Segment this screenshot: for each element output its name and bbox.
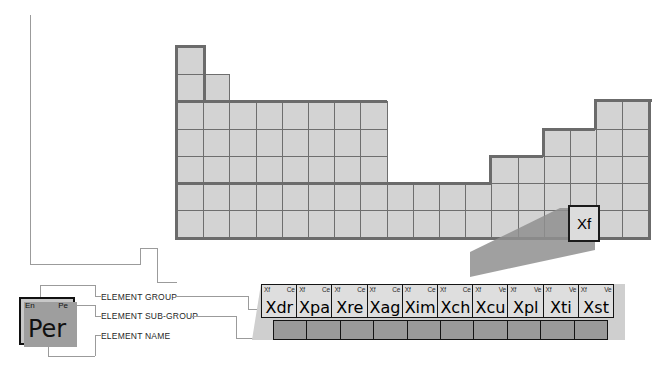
element-cell[interactable] [622,101,649,129]
element-cell[interactable] [308,101,335,129]
element-cell[interactable] [387,210,414,238]
element-cell[interactable] [334,210,361,238]
element-cell[interactable] [308,210,335,238]
connector-left-rail-foot [30,264,140,265]
element-cell[interactable] [622,183,649,211]
series-element-cell[interactable]: XfCeXag [367,284,404,318]
connector-series-sub-tick [236,338,260,339]
element-cell[interactable] [308,156,335,184]
element-cell[interactable] [256,210,283,238]
element-cell[interactable] [570,129,597,157]
element-cell[interactable] [229,183,256,211]
element-cell[interactable] [465,210,492,238]
element-cell[interactable] [203,210,230,238]
element-cell[interactable] [282,156,309,184]
element-cell[interactable] [229,210,256,238]
element-cell[interactable] [360,183,387,211]
element-cell[interactable] [334,129,361,157]
element-cell[interactable] [308,183,335,211]
series-element-cell[interactable]: XfVeXpl [507,284,544,318]
element-cell-xf[interactable]: Xf [568,205,600,242]
element-cell[interactable] [360,129,387,157]
series-element-subgroup: Ce [287,286,295,293]
element-cell[interactable] [596,183,623,211]
table-frame-edge [595,99,651,102]
series-element-subgroup: Ve [604,286,611,293]
element-cell[interactable] [518,156,545,184]
series-element-name: Xcu [473,298,508,317]
element-cell[interactable] [256,129,283,157]
element-cell[interactable] [622,129,649,157]
element-cell[interactable] [360,210,387,238]
element-cell[interactable] [203,183,230,211]
element-cell[interactable] [491,156,518,184]
series-element-cell[interactable]: XfCeXpa [296,284,333,318]
element-cell[interactable] [256,156,283,184]
element-cell[interactable] [596,129,623,157]
element-cell[interactable] [229,156,256,184]
element-cell[interactable] [596,156,623,184]
connector-group-run [40,285,95,286]
series-element-cell[interactable]: XfVeXst [578,284,615,318]
element-cell[interactable] [387,183,414,211]
element-cell[interactable] [177,156,204,184]
element-cell[interactable] [282,101,309,129]
element-cell[interactable] [544,210,571,238]
series-element-cell[interactable]: XfVeXti [543,284,580,318]
legend-key-box[interactable]: En Pe Per [19,297,75,345]
legend-group-label: En [25,301,35,310]
series-element-cell[interactable]: XfCeXdr [261,284,298,318]
element-cell[interactable] [177,47,204,75]
element-cell[interactable] [282,210,309,238]
element-cell[interactable] [622,210,649,238]
table-frame-edge [177,100,387,103]
element-cell[interactable] [439,210,466,238]
series-element-cell[interactable]: XfCeXch [437,284,474,318]
series-element-cell[interactable]: XfCeXre [331,284,368,318]
element-cell[interactable] [518,183,545,211]
series-element-cell[interactable]: XfVeXcu [472,284,509,318]
element-cell[interactable] [203,74,230,102]
element-cell[interactable] [570,156,597,184]
element-cell[interactable] [465,183,492,211]
element-cell[interactable] [491,183,518,211]
table-frame-edge [203,45,206,101]
element-cell[interactable] [413,210,440,238]
element-cell[interactable] [544,183,571,211]
element-cell[interactable] [282,183,309,211]
element-cell[interactable] [334,183,361,211]
series-element-cell[interactable]: XfCeXim [402,284,439,318]
element-cell[interactable] [334,101,361,129]
series-element-group: Xf [334,286,340,293]
element-cell[interactable] [360,156,387,184]
element-cell[interactable] [203,129,230,157]
element-cell[interactable] [177,210,204,238]
callout-element-sub-group: ELEMENT SUB-GROUP [101,311,198,321]
element-cell[interactable] [518,210,545,238]
element-cell[interactable] [544,156,571,184]
connector-bracket-right [157,248,158,282]
element-cell[interactable] [256,183,283,211]
element-cell[interactable] [334,156,361,184]
series-element-name: Xre [332,298,367,317]
element-cell[interactable] [596,101,623,129]
element-cell[interactable] [413,183,440,211]
element-cell[interactable] [229,101,256,129]
element-cell[interactable] [177,101,204,129]
element-cell[interactable] [177,74,204,102]
element-cell[interactable] [256,101,283,129]
element-cell[interactable] [203,156,230,184]
element-cell[interactable] [229,129,256,157]
element-cell[interactable] [544,129,571,157]
element-cell[interactable] [622,156,649,184]
element-cell[interactable] [177,129,204,157]
element-cell[interactable] [177,183,204,211]
element-cell[interactable] [282,129,309,157]
element-cell[interactable] [360,101,387,129]
element-cell[interactable] [596,210,623,238]
table-frame-edge [543,128,595,131]
element-cell[interactable] [203,101,230,129]
element-cell[interactable] [439,183,466,211]
element-cell[interactable] [308,129,335,157]
element-cell[interactable] [491,210,518,238]
